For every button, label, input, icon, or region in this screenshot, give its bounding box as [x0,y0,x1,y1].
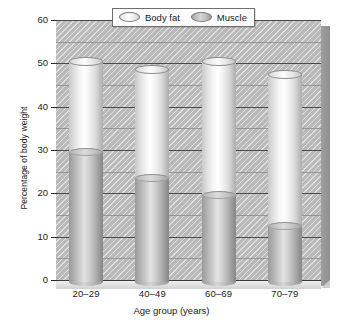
bar-20-29[interactable] [69,61,103,282]
y-tick-label: 30 [28,145,48,155]
legend-label: Body fat [145,12,180,23]
y-tick-label: 10 [28,232,48,242]
gridline-minor [56,42,321,43]
bar-segment-muscle[interactable] [202,195,236,282]
x-tick-label: 40–49 [117,288,187,299]
y-tick-label: 40 [28,102,48,112]
cylinder-dark-icon [191,12,212,23]
x-axis-title: Age group (years) [0,305,343,316]
bar-segment-body-fat[interactable] [268,74,302,226]
bar-segment-body-fat[interactable] [69,61,103,152]
bar-70-79[interactable] [268,74,302,282]
plot-base-corner [321,280,330,288]
legend-label: Muscle [217,12,247,23]
y-tick-label: 60 [28,15,48,25]
bar-segment-muscle[interactable] [135,178,169,282]
x-tick-label: 20–29 [51,288,121,299]
x-tick-label: 70–79 [250,288,320,299]
y-tickmark [51,237,57,238]
legend-item-body-fat[interactable]: Body fat [119,12,180,23]
y-tickmark [51,193,57,194]
bar-40-49[interactable] [135,70,169,282]
y-tickmark [51,107,57,108]
bar-segment-muscle[interactable] [268,226,302,282]
cylinder-top-cap [202,57,236,66]
y-tickmark [51,20,57,21]
cylinder-segment-join [69,148,103,156]
plot-side-face [321,26,330,286]
y-axis-tick-labels: 60 50 40 30 20 10 0 [26,0,48,330]
bar-segment-muscle[interactable] [69,152,103,282]
cylinder-segment-join [268,222,302,230]
legend: Body fat Muscle [112,8,255,27]
y-tickmark [51,63,57,64]
cylinder-light-icon [119,12,140,23]
y-tickmark [51,150,57,151]
y-tick-label: 50 [28,58,48,68]
bar-60-69[interactable] [202,61,236,282]
x-tick-label: 60–69 [184,288,254,299]
cylinder-top-cap [69,57,103,66]
y-tick-label: 0 [28,275,48,285]
legend-item-muscle[interactable]: Muscle [191,12,247,23]
y-tickmark [51,280,57,281]
bar-segment-body-fat[interactable] [202,61,236,195]
plot-area [56,20,331,282]
cylinder-top-cap [268,70,302,79]
chart-figure: Percentage of body weight 60 50 40 30 20… [0,0,343,330]
bar-segment-body-fat[interactable] [135,70,169,178]
y-tick-label: 20 [28,188,48,198]
